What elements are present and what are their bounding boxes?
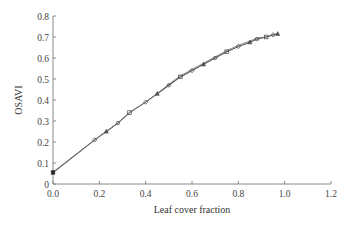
x-tick-label: 1.2 xyxy=(325,189,337,199)
y-tick-label: 0.4 xyxy=(37,96,49,106)
series-line-secondary xyxy=(53,34,278,173)
data-point-triangle-marker xyxy=(276,32,280,36)
plot-area xyxy=(51,32,280,175)
y-tick-label: 0.8 xyxy=(37,12,49,22)
y-tick-label: 0.3 xyxy=(37,117,49,127)
x-tick-label: 1.0 xyxy=(279,189,291,199)
y-axis-label: OSAVI xyxy=(13,85,24,114)
x-tick-label: 0.6 xyxy=(186,189,198,199)
y-tick-label: 0 xyxy=(44,180,49,190)
x-tick-label: 0.0 xyxy=(47,189,59,199)
y-tick-label: 0.2 xyxy=(37,138,49,148)
y-tick-label: 0.6 xyxy=(37,54,49,64)
chart-canvas: 0.00.20.40.60.81.01.200.10.20.30.40.50.6… xyxy=(0,0,342,225)
y-tick-label: 0.7 xyxy=(37,33,49,43)
x-axis-label: Leaf cover fraction xyxy=(154,204,231,215)
x-tick-label: 0.4 xyxy=(140,189,152,199)
y-tick-label: 0.1 xyxy=(37,159,49,169)
x-tick-label: 0.8 xyxy=(232,189,244,199)
series-line xyxy=(53,34,278,173)
data-point-square-marker xyxy=(51,171,55,175)
y-tick-label: 0.5 xyxy=(37,75,49,85)
axes: 0.00.20.40.60.81.01.200.10.20.30.40.50.6… xyxy=(37,12,337,200)
x-tick-label: 0.2 xyxy=(93,189,105,199)
